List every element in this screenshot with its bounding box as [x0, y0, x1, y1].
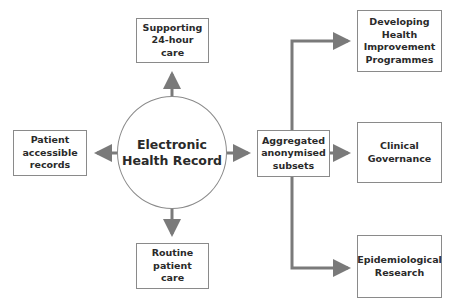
node-supporting-24-hour-care: Supporting 24-hour care [136, 18, 209, 63]
ehr-center-node: Electronic Health Record [117, 96, 227, 209]
node-label: Aggregated anonymised subsets [261, 135, 326, 173]
node-routine-patient-care: Routine patient care [136, 243, 209, 289]
node-label: Routine patient care [152, 247, 194, 285]
node-aggregated-anonymised-subsets: Aggregated anonymised subsets [257, 130, 330, 177]
node-label: Patient accessible records [22, 134, 77, 172]
arrow-aggregated-to-health-programmes [292, 41, 348, 130]
node-clinical-governance: Clinical Governance [357, 122, 442, 183]
node-label: Developing Health Improvement Programmes [364, 16, 436, 66]
node-label: Supporting 24-hour care [139, 22, 206, 60]
node-developing-health-improvement-programmes: Developing Health Improvement Programmes [357, 10, 442, 72]
node-label: Clinical Governance [368, 140, 432, 165]
node-label: Epidemiological Research [357, 254, 442, 279]
ehr-label: Electronic Health Record [122, 137, 222, 169]
node-patient-accessible-records: Patient accessible records [13, 130, 87, 176]
arrow-aggregated-to-epidemiological [292, 177, 348, 268]
node-epidemiological-research: Epidemiological Research [357, 235, 442, 298]
